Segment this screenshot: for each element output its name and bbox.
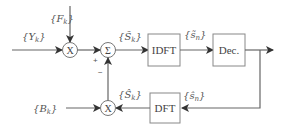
label-s-tilde-n: {s̃n}	[184, 29, 206, 42]
block-diagram: {Yk} {Fk} X + Σ {S̃k} IDFT {s̃n} Dec.	[0, 0, 290, 130]
idft-block: IDFT	[148, 34, 180, 66]
input-f-k: {Fk}	[50, 6, 74, 42]
multiplier-bottom-symbol: X	[104, 103, 112, 114]
summer-symbol: Σ	[105, 45, 111, 56]
multiplier-top-symbol: X	[66, 45, 74, 56]
idft-label: IDFT	[152, 44, 177, 56]
plus-sign: +	[93, 56, 98, 65]
label-y-k: {Yk}	[22, 31, 46, 44]
label-s-tilde-k: {S̃k}	[118, 31, 142, 44]
label-s-hat-n: {ŝn}	[183, 90, 205, 103]
label-b-k: {Bk}	[33, 103, 57, 116]
minus-sign: −	[98, 68, 103, 77]
input-y-k: {Yk}	[12, 31, 62, 50]
multiplier-top: X	[63, 43, 78, 58]
label-s-hat-k: {Ŝk}	[118, 89, 142, 102]
decision-label: Dec.	[219, 44, 240, 56]
dft-block: DFT	[150, 93, 180, 123]
summer: Σ	[101, 43, 116, 58]
dft-label: DFT	[155, 102, 176, 114]
multiplier-bottom: X	[101, 101, 116, 116]
input-b-k: {Bk}	[33, 103, 100, 116]
decision-block: Dec.	[213, 34, 245, 66]
